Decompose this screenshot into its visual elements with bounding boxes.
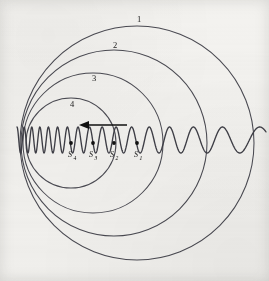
wavefront-label-3: 3 — [92, 73, 96, 83]
source-label-s1-base: S — [134, 150, 138, 159]
source-dot-s4 — [69, 141, 73, 145]
paper-background — [0, 0, 269, 281]
source-label-s3-subscript: 3 — [94, 155, 98, 161]
figure-canvas: 1 2 3 4 S 4 S 3 S 2 S 1 — [0, 0, 269, 281]
source-dot-s2 — [112, 141, 116, 145]
wavefront-label-1: 1 — [137, 14, 141, 24]
source-label-s3-base: S — [89, 150, 93, 159]
source-label-s4-subscript: 4 — [74, 155, 77, 161]
source-label-s4-base: S — [68, 150, 72, 159]
wavefront-label-2: 2 — [113, 40, 117, 50]
source-dot-s1 — [135, 141, 139, 145]
source-dot-s3 — [91, 141, 95, 145]
source-label-s2-subscript: 2 — [116, 155, 119, 161]
source-label-s2-base: S — [110, 150, 114, 159]
doppler-wavefront-figure: 1 2 3 4 S 4 S 3 S 2 S 1 — [0, 0, 269, 281]
source-label-s1-subscript: 1 — [140, 155, 143, 161]
